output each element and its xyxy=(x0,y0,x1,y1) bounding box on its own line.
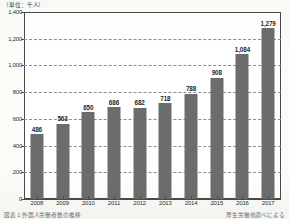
bar-value-label: 682 xyxy=(135,99,145,106)
bar-value-label: 1,084 xyxy=(235,46,250,53)
figure-caption: 図表 1 外国人労働者数の推移 厚生労働省調べによる xyxy=(4,212,285,219)
unit-label: （単位：千人） xyxy=(3,1,44,9)
x-axis-tick-mark xyxy=(268,196,269,200)
y-axis-tick-label: 1,000 xyxy=(8,62,22,68)
y-axis-tick-mark xyxy=(21,119,24,120)
bar-2013 xyxy=(159,103,172,199)
bar-2008 xyxy=(30,134,43,199)
bar-group: 1,084 xyxy=(230,12,256,199)
caption-left: 図表 1 外国人労働者数の推移 xyxy=(4,212,81,219)
x-axis: 2008200920102011201220132014201520162017 xyxy=(24,200,281,212)
bar-2015 xyxy=(210,78,223,199)
bar-group: 718 xyxy=(153,12,179,199)
x-axis-tick-label: 2011 xyxy=(108,200,120,206)
y-axis-tick-mark xyxy=(21,199,24,200)
y-axis-tick-mark xyxy=(21,92,24,93)
caption-right: 厚生労働省調べによる xyxy=(226,212,285,219)
x-axis-tick-mark xyxy=(140,196,141,200)
x-axis-tick-mark xyxy=(242,196,243,200)
y-axis-tick-mark xyxy=(21,12,24,13)
x-axis-tick-mark xyxy=(37,196,38,200)
y-axis-tick-label: 1,400 xyxy=(8,9,22,15)
bar-group: 563 xyxy=(50,12,76,199)
x-axis-tick-label: 2008 xyxy=(30,200,43,206)
y-axis-tick-mark xyxy=(21,146,24,147)
bar-group: 686 xyxy=(101,12,127,199)
bar-group: 788 xyxy=(178,12,204,199)
bar-group: 682 xyxy=(127,12,153,199)
y-axis-tick-mark xyxy=(21,65,24,66)
x-axis-tick-label: 2017 xyxy=(262,200,275,206)
bar-group: 650 xyxy=(75,12,101,199)
bar-value-label: 718 xyxy=(160,95,170,102)
x-axis-tick-mark xyxy=(191,196,192,200)
x-axis-tick-label: 2013 xyxy=(159,200,172,206)
bar-value-label: 788 xyxy=(186,85,196,92)
bar-value-label: 1,279 xyxy=(261,20,276,27)
y-axis-tick-mark xyxy=(21,39,24,40)
x-axis-tick-mark xyxy=(165,196,166,200)
bar-group: 1,279 xyxy=(255,12,281,199)
bar-group: 908 xyxy=(204,12,230,199)
bar-value-label: 908 xyxy=(212,69,222,76)
bar-2012 xyxy=(133,108,146,199)
x-axis-tick-label: 2016 xyxy=(236,200,249,206)
bar-2011 xyxy=(107,107,120,199)
bar-2009 xyxy=(56,124,69,199)
bar-value-label: 686 xyxy=(109,99,119,106)
x-axis-tick-mark xyxy=(114,196,115,200)
x-axis-tick-label: 2015 xyxy=(210,200,223,206)
bar-value-label: 486 xyxy=(32,126,42,133)
bar-value-label: 563 xyxy=(57,115,67,122)
x-axis-tick-label: 2009 xyxy=(56,200,69,206)
y-axis-tick-label: 1,200 xyxy=(8,36,22,42)
bar-2014 xyxy=(185,94,198,199)
x-axis-tick-mark xyxy=(88,196,89,200)
bar-series: 4865636506866827187889081,0841,279 xyxy=(24,12,281,199)
x-axis-tick-label: 2012 xyxy=(133,200,146,206)
x-axis-tick-mark xyxy=(63,196,64,200)
x-axis-tick-label: 2014 xyxy=(185,200,198,206)
bar-2017 xyxy=(262,28,275,199)
bar-value-label: 650 xyxy=(83,104,93,111)
bar-2016 xyxy=(236,54,249,199)
x-axis-tick-mark xyxy=(217,196,218,200)
y-axis-tick-mark xyxy=(21,172,24,173)
chart-page: （単位：千人） 02004006008001,0001,2001,400 486… xyxy=(0,0,289,219)
x-axis-tick-label: 2010 xyxy=(82,200,95,206)
bar-group: 486 xyxy=(24,12,50,199)
bar-2010 xyxy=(82,112,95,199)
